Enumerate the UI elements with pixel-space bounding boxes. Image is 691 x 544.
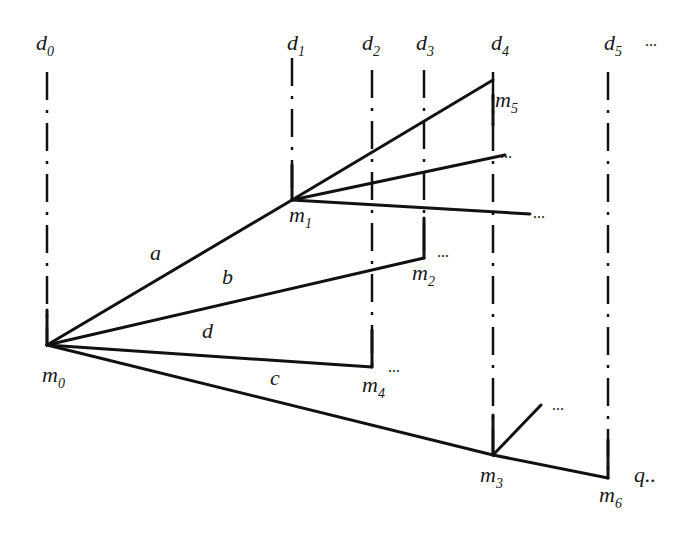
- ellipsis-m1-branch2: ...: [500, 144, 512, 161]
- edge-m3-m6: [493, 455, 608, 478]
- edge-label-a: a: [150, 240, 161, 265]
- ellipsis-m2: ...: [437, 243, 449, 260]
- label-m4: m4: [362, 372, 385, 401]
- label-q: q..: [634, 462, 656, 487]
- label-d0: d0: [36, 30, 54, 59]
- ellipsis-m1-branch3: ...: [533, 204, 545, 221]
- edge-m1-m5: [292, 80, 493, 200]
- edge-m1-branch3: [292, 200, 530, 214]
- ellipsis-m3-branch: ...: [552, 396, 564, 413]
- label-d4: d4: [491, 30, 509, 59]
- edge-label-d: d: [202, 318, 214, 343]
- label-d3: d3: [416, 30, 434, 59]
- edge-a: [47, 200, 292, 345]
- top-ellipsis: ...: [645, 32, 657, 49]
- label-m6: m6: [599, 482, 622, 511]
- label-m5: m5: [495, 87, 518, 116]
- edge-label-c: c: [270, 365, 280, 390]
- label-m3: m3: [480, 462, 503, 491]
- label-m2: m2: [412, 260, 435, 289]
- label-m1: m1: [289, 202, 312, 231]
- edge-label-b: b: [222, 264, 233, 289]
- decision-tree-diagram: d0 d1 d2 d3 d4 d5 ... m0 m1 m2 m3 m4 m5 …: [0, 0, 691, 544]
- ellipsis-m4: ...: [388, 358, 400, 375]
- label-d5: d5: [604, 30, 622, 59]
- edge-b: [47, 258, 424, 345]
- label-m0: m0: [42, 362, 65, 391]
- label-d2: d2: [362, 30, 380, 59]
- edge-m3-branch: [493, 405, 541, 455]
- edge-m1-branch2: [292, 155, 505, 200]
- label-d1: d1: [287, 30, 305, 59]
